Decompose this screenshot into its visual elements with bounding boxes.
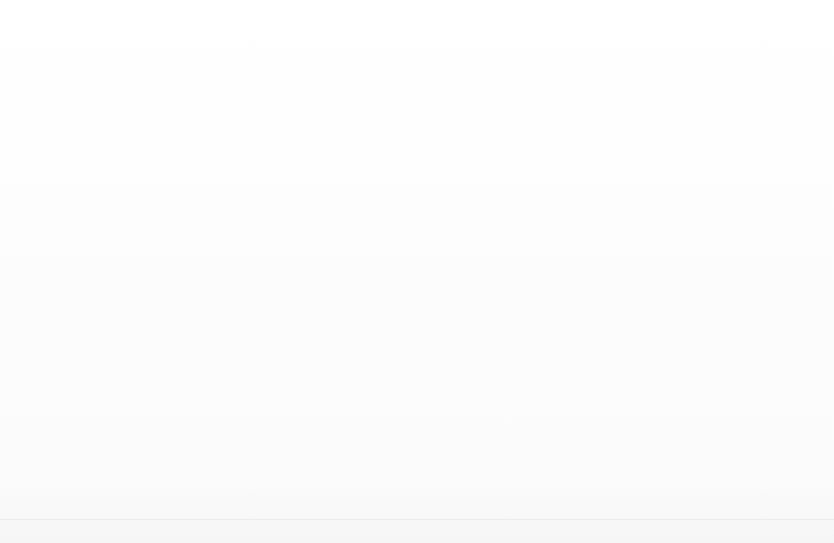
category-label-carter: Carter — [0, 290, 112, 306]
plot-area: Reagan93%Bush I54%Bush II53%Ford47%Carte… — [0, 0, 834, 543]
value-label-clinton: 16% — [235, 412, 264, 428]
value-label-johnson: 8% — [185, 443, 206, 459]
value-label-nixon: 23% — [280, 381, 309, 397]
x-tick-label-0: 0% — [86, 474, 166, 490]
category-label-trump: Trump — [0, 351, 112, 367]
bar-row: Bush II53% — [0, 221, 834, 252]
bar-johnson[interactable] — [127, 445, 178, 457]
bar-row: Johnson8% — [0, 435, 834, 466]
bar-row: Obama35% — [0, 313, 834, 344]
value-label-carter: 43% — [407, 290, 436, 306]
category-label-johnson: Johnson — [0, 443, 112, 459]
value-label-bush-ii: 53% — [470, 228, 499, 244]
bar-bush-i[interactable] — [127, 200, 469, 212]
category-label-reagan: Reagan — [0, 167, 112, 183]
bar-ford[interactable] — [127, 261, 425, 273]
bar-carter[interactable] — [127, 292, 400, 304]
bar-reagan[interactable] — [127, 169, 717, 181]
category-label-bush-i: Bush I — [0, 198, 112, 214]
bar-row: Carter43% — [0, 282, 834, 313]
scan-artifact-line — [0, 519, 834, 520]
value-label-ford: 47% — [432, 259, 461, 275]
bar-row: Ford47% — [0, 252, 834, 283]
value-label-obama: 35% — [356, 320, 385, 336]
bar-obama[interactable] — [127, 322, 349, 334]
bar-row: Clinton16% — [0, 405, 834, 436]
x-tick-label-40: 40% — [340, 474, 420, 490]
category-label-obama: Obama — [0, 320, 112, 336]
bar-trump[interactable] — [127, 353, 343, 365]
value-label-trump: 34% — [350, 351, 379, 367]
bar-row: Reagan93% — [0, 160, 834, 191]
x-tick-label-80: 80% — [593, 474, 673, 490]
x-tick-label-20: 20% — [213, 474, 293, 490]
value-label-bush-i: 54% — [476, 198, 505, 214]
bar-row: Trump34% — [0, 344, 834, 375]
bar-row: Nixon23% — [0, 374, 834, 405]
category-label-bush-ii: Bush II — [0, 228, 112, 244]
value-label-reagan: 93% — [724, 167, 753, 183]
category-label-nixon: Nixon — [0, 381, 112, 397]
bar-nixon[interactable] — [127, 383, 273, 395]
x-tick-label-100: 100% — [720, 474, 800, 490]
bar-bush-ii[interactable] — [127, 230, 463, 242]
x-tick-label-60: 60% — [466, 474, 546, 490]
category-label-clinton: Clinton — [0, 412, 112, 428]
bar-row: Bush I54% — [0, 191, 834, 222]
bar-clinton[interactable] — [127, 414, 228, 426]
category-label-ford: Ford — [0, 259, 112, 275]
